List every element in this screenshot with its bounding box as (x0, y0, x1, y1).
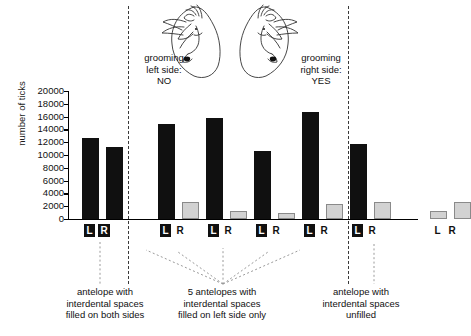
side-label-group-left-only-2: LR (208, 224, 234, 237)
y-tick-label: 16000 (38, 112, 64, 122)
y-tick-label: 8000 (43, 163, 64, 173)
side-label-l: L (160, 224, 171, 237)
y-tick-mark (64, 155, 69, 156)
y-tick-mark (64, 104, 69, 105)
y-tick-mark (64, 181, 69, 182)
x-axis-line (68, 219, 418, 220)
bar-left-only-4-l (302, 112, 319, 219)
caption-both-sides-filled: antelope with interdental spaces filled … (40, 286, 170, 321)
side-label-r: R (270, 224, 282, 237)
y-tick-label: 18000 (38, 99, 64, 109)
bar-both-sides-filled-l (82, 138, 99, 219)
y-tick-label: 14000 (38, 124, 64, 134)
y-tick-mark (64, 206, 69, 207)
bar-left-only-2-r (230, 211, 247, 219)
side-label-group-both-sides-filled: LR (84, 224, 110, 237)
caption-unfilled: antelope with interdental spaces unfille… (296, 286, 426, 321)
grooming-left-annotation: grooming left side: NO (130, 52, 198, 87)
side-label-r: R (318, 224, 330, 237)
side-label-r: R (446, 224, 458, 237)
bar-left-only-1-l (158, 124, 175, 219)
plot-area (68, 91, 418, 219)
bar-left-only-3-r (278, 213, 295, 219)
side-label-group-unfilled: LR (432, 224, 458, 237)
bar-left-only-4-r (326, 204, 343, 219)
y-tick-mark (64, 219, 69, 220)
group-divider-left (128, 6, 129, 284)
y-tick-mark (64, 193, 69, 194)
y-tick-mark (64, 117, 69, 118)
bar-left-only-1-r (182, 202, 199, 219)
y-tick-label: 10000 (38, 150, 64, 160)
y-tick-label: 2000 (43, 201, 64, 211)
side-label-r: R (222, 224, 234, 237)
side-label-group-left-only-3: LR (256, 224, 282, 237)
side-label-l: L (208, 224, 219, 237)
group-divider-right (348, 6, 349, 284)
y-tick-label: 6000 (43, 176, 64, 186)
side-label-l: L (304, 224, 315, 237)
y-tick-label: 4000 (43, 188, 64, 198)
y-tick-mark (64, 129, 69, 130)
side-label-l: L (352, 224, 363, 237)
bar-left-only-3-l (254, 151, 271, 219)
side-label-r: R (174, 224, 186, 237)
bar-unfilled-r (454, 202, 471, 219)
side-label-r: R (98, 224, 110, 237)
side-label-l: L (256, 224, 267, 237)
y-axis-tick-labels: 2000018000160001400012000100008000600040… (22, 85, 64, 225)
bar-left-only-2-l (206, 118, 223, 219)
x-axis-side-labels: LRLRLRLRLRLRLR (68, 224, 418, 240)
y-tick-mark (64, 168, 69, 169)
y-tick-mark (64, 142, 69, 143)
bar-unfilled-l (430, 211, 447, 219)
side-label-group-left-only-4: LR (304, 224, 330, 237)
side-label-group-left-only-1: LR (160, 224, 186, 237)
bar-both-sides-filled-r (106, 147, 123, 219)
y-tick-mark (64, 91, 69, 92)
bar-left-only-5-l (350, 144, 367, 219)
side-label-r: R (366, 224, 378, 237)
bar-left-only-5-r (374, 202, 391, 219)
y-tick-label: 12000 (38, 137, 64, 147)
y-tick-label: 20000 (38, 86, 64, 96)
grooming-right-annotation: grooming right side: YES (286, 52, 356, 87)
caption-left-side-only: 5 antelopes with interdental spaces fill… (152, 286, 292, 321)
side-label-group-left-only-5: LR (352, 224, 378, 237)
side-label-l: L (432, 224, 443, 237)
side-label-l: L (84, 224, 95, 237)
